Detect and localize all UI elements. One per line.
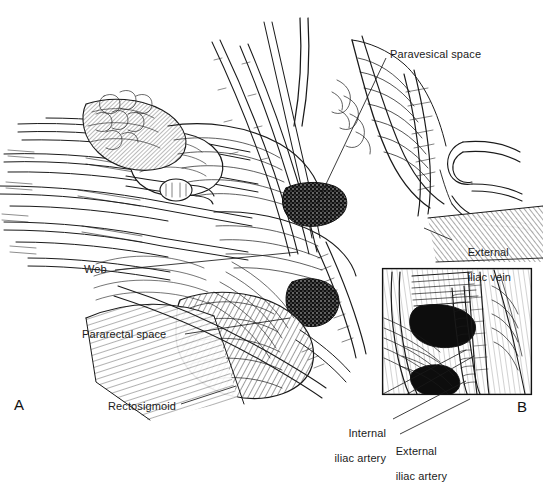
- label-external-iliac-vein-line1: External: [468, 246, 509, 258]
- label-pararectal-space: Pararectal space: [82, 328, 166, 341]
- label-external-iliac-vein-line2: iliac vein: [468, 271, 511, 283]
- label-external-iliac-artery-line2: iliac artery: [396, 470, 447, 482]
- label-web: Web: [84, 263, 107, 276]
- label-rectosigmoid: Rectosigmoid: [108, 400, 176, 413]
- label-internal-iliac-artery: Internal iliac artery: [246, 414, 386, 477]
- panel-label-b: B: [517, 398, 527, 415]
- panel-label-a: A: [14, 396, 24, 413]
- label-external-iliac-artery: External iliac artery: [383, 432, 447, 486]
- label-internal-iliac-artery-line2: iliac artery: [335, 452, 386, 464]
- label-external-iliac-vein: External iliac vein: [455, 233, 511, 296]
- label-external-iliac-artery-line1: External: [396, 445, 437, 457]
- label-internal-iliac-artery-line1: Internal: [348, 427, 386, 439]
- label-paravesical-space: Paravesical space: [390, 48, 481, 61]
